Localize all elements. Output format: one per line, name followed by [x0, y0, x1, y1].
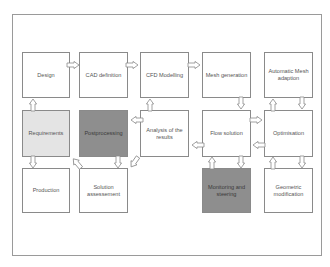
node-flow-solution: Flow solution — [202, 110, 251, 157]
node-optimisation: Optimisation — [264, 110, 313, 157]
node-monitoring-and-steering: Monitoring and steering — [202, 168, 251, 213]
node-geometric-modification: Geometric modification — [264, 168, 313, 213]
node-analysis-of-results: Analysis of the results — [140, 110, 189, 157]
node-production: Production — [22, 168, 70, 213]
node-mesh-generation: Mesh generation — [202, 52, 251, 98]
node-postprocessing: Postprocessing — [79, 110, 128, 157]
node-design: Design — [22, 52, 70, 98]
node-automatic-mesh-adaption: Automatic Mesh adaption — [264, 52, 313, 98]
node-cfd-modelling: CFD Modelling — [140, 52, 189, 98]
node-solution-assessement: Solution assessement — [79, 168, 128, 213]
node-cad-definition: CAD definition — [79, 52, 128, 98]
node-requirements: Requirements — [22, 110, 70, 157]
